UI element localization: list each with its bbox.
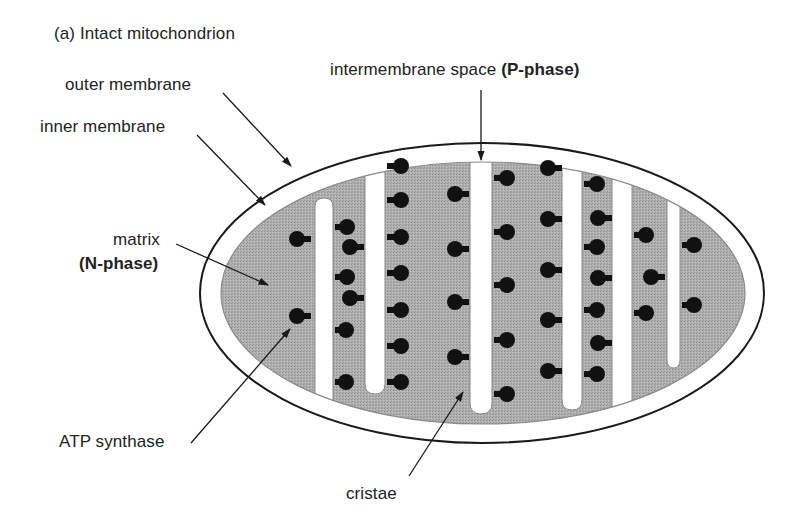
matrix-region	[200, 130, 770, 470]
crista	[667, 130, 680, 368]
mitochondrion-diagram	[0, 0, 802, 531]
crista	[315, 198, 333, 470]
crista	[562, 130, 582, 410]
arrow-inner-membrane	[197, 135, 265, 205]
arrow-outer-membrane	[223, 93, 291, 166]
crista	[470, 130, 492, 414]
